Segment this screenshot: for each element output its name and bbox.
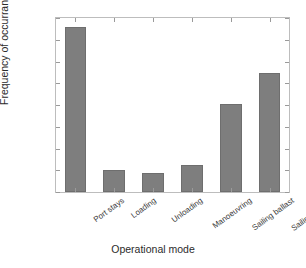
- bars-layer: [56, 18, 289, 192]
- y-tick-mark: [56, 83, 60, 84]
- x-tick-mark: [114, 188, 115, 192]
- x-category-label: Manoeuvring: [211, 196, 254, 230]
- figure-canvas: Frequency of occurrance Port staysLoadin…: [0, 0, 306, 268]
- y-tick-mark-right: [285, 127, 289, 128]
- y-tick-mark-right: [285, 62, 289, 63]
- y-tick-mark-right: [285, 149, 289, 150]
- y-tick-mark: [56, 62, 60, 63]
- x-axis-title: Operational mode: [0, 243, 306, 255]
- y-tick-mark: [56, 170, 60, 171]
- y-tick-mark-right: [285, 18, 289, 19]
- y-tick-mark-right: [285, 40, 289, 41]
- bar: [259, 73, 281, 192]
- x-tick-mark-top: [114, 18, 115, 22]
- x-tick-mark: [75, 188, 76, 192]
- x-category-label: Unloading: [170, 196, 204, 224]
- y-axis-title: Frequency of occurrance: [0, 0, 10, 105]
- x-tick-mark-top: [153, 18, 154, 22]
- y-tick-mark-right: [285, 170, 289, 171]
- y-tick-mark-right: [285, 105, 289, 106]
- y-tick-mark: [56, 149, 60, 150]
- x-tick-mark: [270, 188, 271, 192]
- x-category-label: Loading: [130, 196, 158, 220]
- y-tick-mark: [56, 192, 60, 193]
- y-tick-mark: [56, 127, 60, 128]
- x-tick-mark-top: [192, 18, 193, 22]
- y-tick-mark: [56, 18, 60, 19]
- plot-area: [55, 17, 290, 193]
- bar: [65, 27, 87, 192]
- x-tick-mark: [192, 188, 193, 192]
- x-tick-mark-top: [75, 18, 76, 22]
- x-category-label: Port stays: [92, 196, 126, 224]
- x-tick-mark-top: [270, 18, 271, 22]
- y-tick-mark-right: [285, 83, 289, 84]
- x-tick-mark: [231, 188, 232, 192]
- y-tick-mark: [56, 40, 60, 41]
- x-category-label: Sailing ballast: [250, 196, 295, 232]
- y-tick-mark: [56, 105, 60, 106]
- x-tick-mark-top: [231, 18, 232, 22]
- bar: [220, 104, 242, 192]
- x-tick-mark: [153, 188, 154, 192]
- y-tick-mark-right: [285, 192, 289, 193]
